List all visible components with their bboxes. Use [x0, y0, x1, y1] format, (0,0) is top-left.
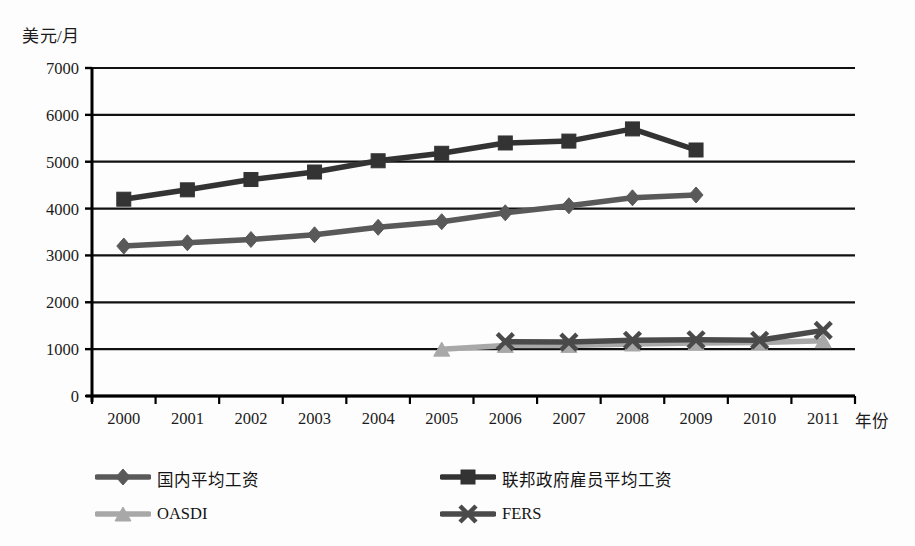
data-point-square	[689, 143, 703, 157]
data-point-diamond	[116, 469, 130, 485]
square-marker	[562, 134, 576, 148]
series-line-cross	[505, 330, 823, 342]
diamond-marker	[435, 214, 449, 230]
diamond-marker	[116, 469, 130, 485]
series-line-diamond	[124, 195, 696, 246]
data-point-square	[625, 122, 639, 136]
y-tick-label: 0	[71, 387, 79, 406]
x-tick-label: 2008	[616, 409, 649, 428]
legend-marker-triangle	[95, 503, 151, 525]
x-tick-label: 2006	[489, 409, 522, 428]
square-marker	[498, 136, 512, 150]
legend-marker-square	[440, 466, 496, 488]
x-axis-title: 年份	[855, 408, 889, 432]
diamond-marker	[371, 219, 385, 235]
chart-figure: 美元/月 01000200030004000500060007000200020…	[0, 0, 915, 546]
square-marker	[371, 154, 385, 168]
data-point-diamond	[371, 219, 385, 235]
data-point-diamond	[562, 198, 576, 214]
square-marker	[689, 143, 703, 157]
y-tick-label: 4000	[46, 200, 79, 219]
data-point-square	[371, 154, 385, 168]
square-marker	[308, 165, 322, 179]
series-line-square	[124, 129, 696, 199]
legend-label: OASDI	[157, 504, 207, 524]
data-point-diamond	[117, 238, 131, 254]
data-point-square	[435, 146, 449, 160]
y-tick-label: 5000	[46, 153, 79, 172]
x-tick-label: 2007	[552, 409, 585, 428]
data-point-diamond	[180, 235, 194, 251]
y-tick-label: 2000	[46, 293, 79, 312]
diamond-marker	[689, 187, 703, 203]
diamond-marker	[308, 227, 322, 243]
x-tick-label: 2010	[743, 409, 776, 428]
data-point-square	[180, 183, 194, 197]
data-point-square	[461, 470, 475, 484]
data-point-square	[117, 192, 131, 206]
data-point-diamond	[435, 214, 449, 230]
data-point-diamond	[498, 205, 512, 221]
data-point-diamond	[244, 231, 258, 247]
data-point-square	[308, 165, 322, 179]
diamond-marker	[180, 235, 194, 251]
data-point-diamond	[689, 187, 703, 203]
y-tick-label: 3000	[46, 246, 79, 265]
y-tick-label: 6000	[46, 106, 79, 125]
x-tick-label: 2001	[171, 409, 204, 428]
x-tick-label: 2011	[807, 409, 839, 428]
square-marker	[117, 192, 131, 206]
y-tick-label: 1000	[46, 340, 79, 359]
legend-label: 联邦政府雇员平均工资	[502, 467, 672, 491]
square-marker	[180, 183, 194, 197]
x-tick-label: 2002	[234, 409, 267, 428]
square-marker	[435, 146, 449, 160]
diamond-marker	[498, 205, 512, 221]
square-marker	[625, 122, 639, 136]
x-tick-label: 2004	[362, 409, 395, 428]
data-point-square	[244, 173, 258, 187]
chart-plot-area: 0100020003000400050006000700020002001200…	[0, 0, 915, 546]
x-tick-label: 2009	[680, 409, 713, 428]
data-point-square	[498, 136, 512, 150]
diamond-marker	[562, 198, 576, 214]
legend-label: 国内平均工资	[157, 467, 259, 491]
square-marker	[461, 470, 475, 484]
y-tick-label: 7000	[46, 59, 79, 78]
legend-marker-diamond	[95, 466, 151, 488]
legend-label: FERS	[502, 504, 541, 524]
diamond-marker	[244, 231, 258, 247]
diamond-marker	[625, 190, 639, 206]
x-tick-label: 2003	[298, 409, 331, 428]
x-tick-label: 2005	[425, 409, 458, 428]
data-point-square	[562, 134, 576, 148]
diamond-marker	[117, 238, 131, 254]
square-marker	[244, 173, 258, 187]
legend-marker-cross	[440, 503, 496, 525]
data-point-diamond	[308, 227, 322, 243]
data-point-diamond	[625, 190, 639, 206]
x-tick-label: 2000	[107, 409, 140, 428]
